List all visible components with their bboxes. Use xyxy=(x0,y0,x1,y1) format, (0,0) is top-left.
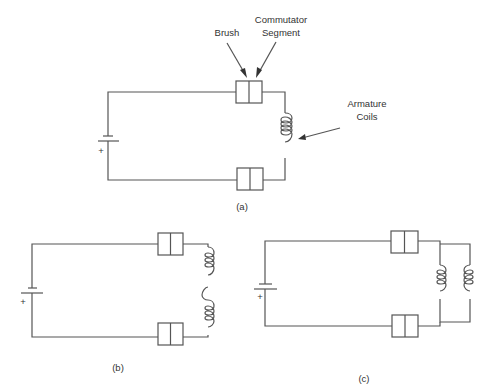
commutator-label-line1: Commutator xyxy=(251,14,311,25)
armature-coil-1-icon xyxy=(205,247,214,275)
battery-plus-a: + xyxy=(96,145,106,156)
panel-c-circuit xyxy=(254,231,473,337)
armature-coil-icon xyxy=(281,113,292,142)
battery-plus-b: + xyxy=(18,296,28,307)
armature-label-line1: Armature xyxy=(342,98,392,109)
panel-b-circuit xyxy=(21,233,214,345)
caption-b: (b) xyxy=(108,362,128,373)
panel-a-circuit xyxy=(98,81,292,190)
battery-plus-c: + xyxy=(255,291,265,302)
commutator-label-line2: Segment xyxy=(251,27,311,38)
caption-c: (c) xyxy=(354,373,374,384)
brush-label: Brush xyxy=(207,27,247,38)
armature-coil-parallel-2-icon xyxy=(464,265,473,291)
armature-coil-2-icon xyxy=(202,287,214,327)
armature-coil-parallel-1-icon xyxy=(437,265,446,291)
caption-a: (a) xyxy=(232,201,252,212)
armature-label-line2: Coils xyxy=(342,111,392,122)
circuit-drawing xyxy=(0,0,491,389)
armature-circuit-figure: Brush Commutator Segment Armature Coils … xyxy=(0,0,491,389)
annotation-arrows xyxy=(227,42,340,138)
